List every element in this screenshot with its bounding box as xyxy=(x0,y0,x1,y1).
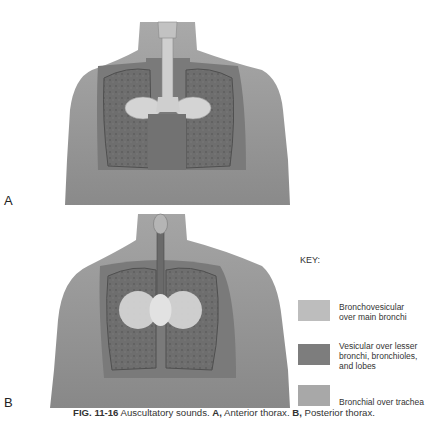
caption-b-text: Posterior thorax. xyxy=(302,407,375,418)
legend-swatch-vesicular xyxy=(298,344,330,365)
legend-label-bronchovesicular: Bronchovesicular over main bronchi xyxy=(339,302,407,322)
caption-a-text: Anterior thorax. xyxy=(222,407,292,418)
anterior-thorax-illustration xyxy=(0,0,448,210)
caption-title: Auscultatory sounds. xyxy=(118,407,212,418)
caption-b-label: B, xyxy=(292,407,302,418)
panel-a-label: A xyxy=(4,193,13,208)
legend-title: KEY: xyxy=(300,255,320,265)
legend-label-bronchial: Bronchial over trachea xyxy=(339,397,424,407)
bronchovesicular-zone-b xyxy=(119,291,202,329)
legend-swatch-bronchial xyxy=(298,385,330,406)
legend-label-vesicular: Vesicular over lesser bronchi, bronchiol… xyxy=(339,341,417,371)
legend-swatch-bronchovesicular xyxy=(298,300,330,321)
figure-caption: FIG. 11-16 Auscultatory sounds. A, Anter… xyxy=(0,407,448,418)
caption-a-label: A, xyxy=(212,407,222,418)
caption-fig-number: FIG. 11-16 xyxy=(73,407,118,418)
